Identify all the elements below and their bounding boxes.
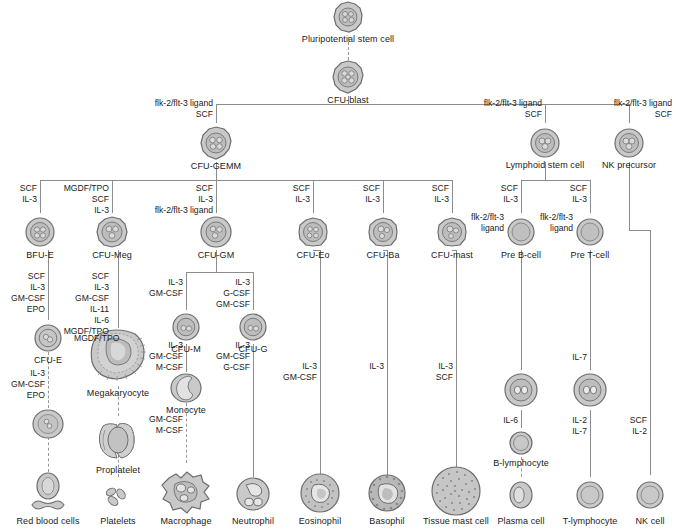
gf-cfu-mast: SCFIL-3 [432, 183, 449, 205]
label-cfu-meg: CFU-Meg [92, 250, 132, 261]
connector-nkprec-jog [629, 230, 651, 231]
gf-cfu-m: IL-3GM-CSF [149, 277, 183, 299]
connector-pretcell-to-blast [590, 250, 591, 370]
label-cfu-eo: CFU-Eo [296, 250, 329, 261]
gf-cfu-e: SCFIL-3GM-CSFEPO [11, 271, 45, 315]
connector-lymphoid-bus [521, 180, 591, 181]
label-plasma-cell: Plasma cell [497, 516, 544, 527]
cell-t-lymphoblast [572, 372, 608, 408]
hematopoiesis-diagram: Pluripotential stem cell CFU-blast CFU-G… [0, 0, 676, 532]
connector-nkprec-to-nkcell [650, 230, 651, 475]
gf-b-lymph: IL-6 [503, 415, 518, 426]
gf-nk-cell: SCFIL-2 [630, 415, 647, 437]
gf-t-lymph: IL-2IL-7 [572, 415, 587, 437]
cell-neutrophil [234, 475, 272, 513]
label-neutrophil: Neutrophil [232, 516, 274, 527]
gf-monocyte: IL-3GM-CSFM-CSF [149, 340, 183, 373]
label-red-blood-cells: Red blood cells [16, 516, 79, 527]
connector-to-cfugm [216, 180, 217, 213]
connector-bus-to-cfugemm [216, 104, 217, 123]
cell-tissue-mast-cell [429, 464, 483, 518]
gf-basophil: IL-3 [369, 361, 384, 372]
label-cfu-gemm: CFU-GEMM [191, 161, 241, 172]
connector-to-cfumast [452, 180, 453, 213]
gf-pre-b: SCFIL-3 [501, 183, 518, 205]
label-b-lymphocyte: B-lymphocyte [493, 458, 549, 469]
label-pre-b-cell: Pre B-cell [501, 250, 541, 261]
cell-macrophage [159, 468, 213, 516]
gf-reticulo: IL-3GM-CSFEPO [11, 368, 45, 401]
gf-cfu-gemm: flk-2/flt-3 ligandSCF [155, 98, 213, 120]
label-lymphoid-stem-cell: Lymphoid stem cell [506, 160, 585, 171]
label-macrophage: Macrophage [160, 516, 211, 527]
connector-nkprec-down [629, 162, 630, 230]
cell-cfu-meg [95, 215, 129, 249]
label-nk-cell: NK cell [635, 516, 664, 527]
label-proplatelet: Proplatelet [96, 465, 140, 476]
cell-plasma-cell [507, 480, 535, 510]
cell-red-blood-cells [28, 472, 68, 516]
cell-monocyte [169, 372, 203, 404]
label-nk-precursor: NK precursor [602, 160, 656, 171]
cell-t-lymphocyte [575, 480, 605, 510]
connector-bus-to-lymphoid [545, 104, 546, 123]
cell-cfu-e [33, 323, 63, 353]
gf-nk-prec: flk-2/flt-3 ligandSCF [614, 98, 672, 120]
cell-cfu-m [171, 312, 201, 342]
gf-cfu-meg: MGDF/TPOSCFIL-3 [64, 183, 109, 216]
connector-cfuba-to-basophil [387, 250, 388, 475]
cell-cfu-gm [199, 215, 233, 249]
connector-to-pretcell [590, 180, 591, 213]
cell-platelets [101, 485, 135, 509]
gf-megakary-mgdf: MGDF/TPO [74, 333, 119, 344]
cell-cfu-gemm [198, 125, 234, 161]
gf-cfu-gm: SCFIL-3flk-2/flt-3 ligand [155, 183, 213, 216]
label-cfu-ba: CFU-Ba [366, 250, 399, 261]
connector-blast-to-blymphocyte [521, 410, 522, 428]
cell-cfu-ba [367, 216, 399, 248]
cell-b-lymphocyte [508, 430, 534, 456]
cell-lymphoid-stem-cell [529, 127, 561, 159]
gf-macroph: GM-CSFM-CSF [149, 414, 183, 436]
gf-neutroph: IL-3GM-CSFG-CSF [216, 340, 250, 373]
cell-reticulocyte [31, 408, 65, 440]
connector-to-prebcell [521, 180, 522, 213]
label-pre-t-cell: Pre T-cell [571, 250, 610, 261]
gf-mast: IL-3SCF [436, 361, 453, 383]
cell-pre-b-cell [506, 217, 536, 247]
connector-cfug-to-neutrophil [253, 344, 254, 477]
connector-cfugm-bus [186, 272, 253, 273]
connector-cfueo-to-eosinophil [320, 250, 321, 475]
cell-cfu-g [238, 312, 268, 342]
gf-pre-b-flk: flk-2/flt-3ligand [471, 212, 504, 234]
connector-main-bus [216, 104, 630, 105]
cell-nk-precursor [613, 127, 645, 159]
connector-cfumast-to-tissuemast [456, 250, 457, 470]
gf-cfu-ba: SCFIL-3 [363, 183, 380, 205]
label-basophil: Basophil [369, 516, 404, 527]
cell-cfu-mast [436, 216, 468, 248]
cell-basophil [366, 472, 408, 514]
connector-to-cfumeg [112, 180, 113, 213]
gf-eosino: IL-3GM-CSF [283, 361, 317, 383]
connector-to-bfue [40, 180, 41, 213]
cell-bfu-e [24, 216, 56, 248]
label-bfu-e: BFU-E [26, 250, 54, 261]
label-tissue-mast-cell: Tissue mast cell [423, 516, 489, 527]
connector-myeloid-bus [40, 180, 453, 181]
cell-proplatelet [93, 420, 143, 462]
gf-t-blast: IL-7 [572, 352, 587, 363]
label-platelets: Platelets [100, 516, 135, 527]
gf-megakary: SCFIL-3GM-CSFIL-11IL-6MGDF/TPO [64, 271, 109, 337]
connector-to-cfug [253, 272, 254, 310]
connector-to-cfum [186, 272, 187, 310]
connector-cfumeg-to-megakaryocyte [118, 250, 119, 328]
label-eosinophil: Eosinophil [299, 516, 342, 527]
connector-bfue-to-cfue [48, 250, 49, 320]
label-cfu-gm: CFU-GM [198, 250, 235, 261]
cell-pluripotential-stem-cell [331, 0, 365, 34]
connector-blast-to-tlymphocyte [590, 410, 591, 477]
label-cfu-blast: CFU-blast [327, 95, 368, 106]
connector-reticulocyte-to-rbc [48, 437, 49, 472]
cell-pre-t-cell [575, 217, 605, 247]
